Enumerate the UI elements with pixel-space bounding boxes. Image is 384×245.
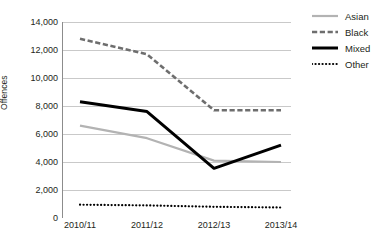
series-line-mixed (80, 102, 281, 169)
y-axis-tick-label: 10,000 (8, 74, 58, 83)
legend-label: Black (345, 27, 368, 38)
line-chart: Offences 14,00012,00010,0008,0006,0004,0… (0, 0, 384, 245)
legend-item-mixed[interactable]: Mixed (312, 40, 382, 56)
x-axis-tick-label: 2013/14 (249, 220, 313, 231)
y-axis-tick-label: 6,000 (8, 130, 58, 139)
x-axis-tick-label: 2012/13 (182, 220, 246, 231)
legend-item-other[interactable]: Other (312, 56, 382, 72)
legend-swatch-other-icon (312, 58, 338, 70)
legend-label: Asian (345, 11, 369, 22)
y-axis-tick-label: 14,000 (8, 18, 58, 27)
plot-area (62, 22, 291, 218)
legend-swatch-asian-icon (312, 10, 338, 22)
legend-item-asian[interactable]: Asian (312, 8, 382, 24)
legend-label: Mixed (345, 43, 370, 54)
y-axis-tick-labels: 14,00012,00010,0008,0006,0004,0002,0000 (8, 0, 58, 245)
y-axis-tick-label: 4,000 (8, 158, 58, 167)
legend-label: Other (345, 59, 369, 70)
series-line-black (80, 39, 281, 110)
legend-swatch-mixed-icon (312, 42, 338, 54)
y-axis-tick-label: 2,000 (8, 186, 58, 195)
x-axis-tick-label: 2010/11 (48, 220, 112, 231)
y-axis-tick-label: 12,000 (8, 46, 58, 55)
legend-swatch-black-icon (312, 26, 338, 38)
legend-item-black[interactable]: Black (312, 24, 382, 40)
series-line-other (80, 205, 281, 208)
x-axis-tick-labels: 2010/112011/122012/132013/14 (62, 220, 291, 234)
y-axis-tick-label: 8,000 (8, 102, 58, 111)
chart-legend: AsianBlackMixedOther (312, 8, 382, 72)
plot-svg (62, 22, 291, 218)
x-axis-tick-label: 2011/12 (115, 220, 179, 231)
